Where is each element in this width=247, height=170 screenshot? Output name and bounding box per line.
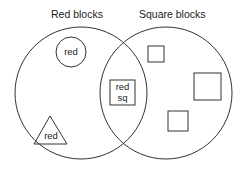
square-block-small: [148, 46, 164, 62]
red-circle-label: red: [56, 46, 86, 57]
red-square-label-line2: sq: [110, 92, 135, 103]
square-block-medium: [168, 111, 188, 131]
square-block-large: [194, 73, 221, 100]
red-square-label-line1: red: [110, 81, 135, 92]
red-triangle-label: red: [36, 130, 66, 141]
